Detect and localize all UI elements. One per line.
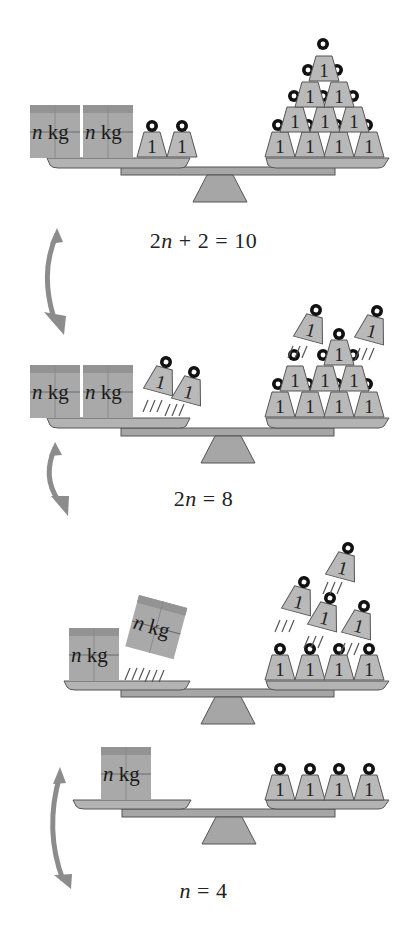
right-pan bbox=[266, 418, 389, 428]
scale-step-3 bbox=[64, 538, 389, 724]
right-pan bbox=[266, 158, 389, 168]
scale-step-1 bbox=[30, 38, 389, 202]
balance-diagram: 1 1 n kg bbox=[0, 0, 407, 930]
left-pan bbox=[64, 681, 190, 690]
unknown-box bbox=[83, 105, 133, 158]
unknown-box bbox=[83, 365, 133, 418]
weight-pyramid bbox=[265, 38, 384, 157]
equation-step-1: 2n + 2 = 10 bbox=[0, 228, 407, 254]
removed-weight bbox=[326, 538, 365, 582]
motion-lines bbox=[323, 582, 342, 594]
weight-stack bbox=[265, 328, 384, 417]
unit-weight bbox=[324, 763, 354, 800]
unknown-box bbox=[30, 105, 80, 158]
unknown-box bbox=[69, 628, 119, 681]
fulcrum bbox=[202, 817, 256, 844]
curved-arrow-icon bbox=[53, 767, 72, 889]
removed-weight bbox=[172, 362, 211, 406]
scale-step-4 bbox=[73, 747, 389, 844]
left-pan bbox=[47, 418, 190, 428]
equation-step-2: 2n = 8 bbox=[0, 486, 407, 512]
removed-weight bbox=[308, 588, 347, 632]
left-pan bbox=[73, 800, 191, 809]
fulcrum bbox=[201, 697, 255, 724]
motion-lines bbox=[145, 670, 164, 682]
unit-weight bbox=[137, 120, 167, 157]
removed-weight bbox=[342, 596, 381, 640]
left-pan bbox=[47, 158, 190, 168]
right-pan bbox=[266, 800, 389, 809]
unit-weight bbox=[167, 120, 197, 157]
unit-weight bbox=[295, 763, 325, 800]
unit-weight bbox=[265, 763, 295, 800]
unit-weight bbox=[354, 763, 384, 800]
fulcrum bbox=[201, 436, 255, 463]
motion-lines bbox=[125, 668, 144, 680]
unit-weight bbox=[354, 643, 384, 680]
motion-lines bbox=[165, 404, 184, 416]
unknown-box bbox=[30, 365, 80, 418]
motion-lines bbox=[275, 620, 294, 632]
fulcrum bbox=[193, 175, 247, 202]
unit-weight bbox=[265, 643, 295, 680]
motion-lines bbox=[143, 400, 162, 412]
scale-beam bbox=[122, 809, 335, 817]
unit-weight bbox=[295, 643, 325, 680]
removed-box bbox=[125, 595, 187, 659]
scale-step-2 bbox=[30, 300, 393, 463]
scale-beam bbox=[121, 428, 334, 436]
right-pan bbox=[266, 681, 389, 690]
removed-weight bbox=[355, 301, 394, 345]
removed-weight bbox=[294, 300, 333, 344]
removed-weight bbox=[282, 572, 321, 616]
unknown-box bbox=[101, 747, 151, 800]
equation-step-3: n = 4 bbox=[0, 878, 407, 904]
